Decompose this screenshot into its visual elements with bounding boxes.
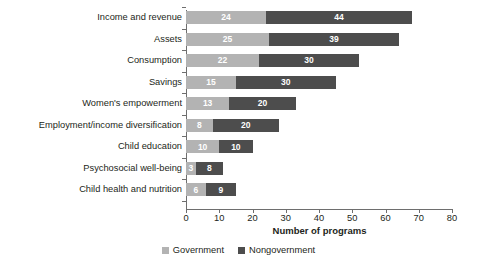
bar-value-label: 20 — [241, 121, 250, 130]
bar-value-label: 30 — [281, 78, 290, 87]
bar-value-label: 39 — [329, 35, 338, 44]
legend-swatch-icon — [238, 247, 245, 254]
bar-segment-government: 3 — [186, 162, 196, 175]
x-axis-tick-label: 70 — [404, 214, 434, 223]
bar-segment-nongovernment: 20 — [229, 97, 296, 110]
legend-item: Nongovernment — [238, 246, 315, 255]
bar-value-label: 24 — [221, 13, 230, 22]
bar-row: 69 — [186, 183, 236, 196]
bar-segment-government: 10 — [186, 140, 219, 153]
x-axis-tick-label: 80 — [437, 214, 467, 223]
bar-value-label: 9 — [219, 186, 224, 195]
bar-value-label: 8 — [207, 164, 212, 173]
bar-value-label: 30 — [304, 56, 313, 65]
bar-segment-nongovernment: 44 — [266, 11, 412, 24]
x-axis-tick-label: 0 — [171, 214, 201, 223]
x-axis-tick-label: 10 — [204, 214, 234, 223]
category-label: Women's empowerment — [0, 99, 182, 108]
bar-segment-government: 6 — [186, 183, 206, 196]
legend-label: Government — [173, 246, 224, 255]
bar-row: 1530 — [186, 76, 336, 89]
category-label: Child education — [0, 142, 182, 151]
bar-value-label: 44 — [334, 13, 343, 22]
category-label: Psychosocial well-being — [0, 164, 182, 173]
category-label: Assets — [0, 35, 182, 44]
x-axis-tick-label: 60 — [371, 214, 401, 223]
legend-item: Government — [162, 246, 224, 255]
category-label: Savings — [0, 78, 182, 87]
chart-legend: GovernmentNongovernment — [0, 246, 477, 255]
category-label: Employment/income diversification — [0, 121, 182, 130]
bar-value-label: 20 — [258, 99, 267, 108]
bar-segment-government: 13 — [186, 97, 229, 110]
y-axis-tick — [182, 7, 186, 8]
bar-value-label: 22 — [218, 56, 227, 65]
category-label: Consumption — [0, 56, 182, 65]
bar-row: 38 — [186, 162, 223, 175]
x-axis-tick-label: 40 — [304, 214, 334, 223]
x-axis-title: Number of programs — [186, 226, 453, 236]
bar-row: 1010 — [186, 140, 253, 153]
bar-row: 820 — [186, 119, 279, 132]
bar-segment-government: 25 — [186, 33, 269, 46]
category-label: Child health and nutrition — [0, 185, 182, 194]
bar-segment-government: 8 — [186, 119, 213, 132]
bar-row: 1320 — [186, 97, 296, 110]
bar-value-label: 13 — [203, 99, 212, 108]
x-axis-tick-label: 30 — [271, 214, 301, 223]
bar-value-label: 10 — [231, 143, 240, 152]
stacked-bar-chart: Income and revenueAssetsConsumptionSavin… — [0, 0, 477, 266]
bar-segment-nongovernment: 9 — [206, 183, 236, 196]
x-axis-tick-label: 50 — [337, 214, 367, 223]
plot-area: 2444253922301530132082010103869 — [186, 10, 452, 208]
bar-segment-nongovernment: 30 — [236, 76, 336, 89]
bar-value-label: 8 — [197, 121, 202, 130]
bar-segment-government: 24 — [186, 11, 266, 24]
bar-row: 2230 — [186, 54, 359, 67]
bar-value-label: 25 — [223, 35, 232, 44]
bar-segment-government: 22 — [186, 54, 259, 67]
bar-value-label: 3 — [189, 164, 194, 173]
bar-segment-government: 15 — [186, 76, 236, 89]
category-label: Income and revenue — [0, 13, 182, 22]
bar-value-label: 10 — [198, 143, 207, 152]
bar-segment-nongovernment: 30 — [259, 54, 359, 67]
bar-segment-nongovernment: 8 — [196, 162, 223, 175]
bar-value-label: 15 — [206, 78, 215, 87]
legend-swatch-icon — [162, 247, 169, 254]
bar-value-label: 6 — [194, 186, 199, 195]
bar-row: 2444 — [186, 11, 412, 24]
bar-segment-nongovernment: 20 — [213, 119, 280, 132]
legend-label: Nongovernment — [249, 246, 315, 255]
bar-segment-nongovernment: 10 — [219, 140, 252, 153]
x-axis-tick-label: 20 — [238, 214, 268, 223]
bar-row: 2539 — [186, 33, 399, 46]
bar-segment-nongovernment: 39 — [269, 33, 399, 46]
